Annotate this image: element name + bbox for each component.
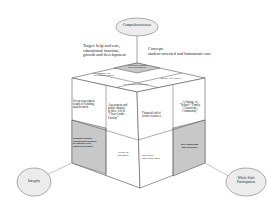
top-left-label: emphasize thecultivation of integrity: [88, 72, 120, 77]
node-comprehensiveness: Comprehensiveness: [118, 24, 156, 28]
right-tr-label: A linkage of"School - Family- Classroom …: [176, 101, 204, 114]
left-br-label: Follow upassessment: [108, 152, 138, 157]
node-whole-staff: Whole-Staff Participation: [232, 177, 260, 184]
target-text: Target: help and care, educational funct…: [83, 44, 126, 58]
top-front-label: develop social/mental state: [118, 83, 154, 85]
concept-text: Concept: student-oriented and humanistic…: [148, 47, 211, 56]
left-tl-label: Set up assessmentteams of Fundingqualifi…: [73, 100, 105, 109]
left-tr-label: Assessment andpublic displayat three lev…: [108, 104, 138, 120]
node-integrity: Integrity: [22, 180, 46, 184]
left-bl-label: Regularly updateinformation databaseof s…: [73, 138, 106, 149]
right-bl-label: addition ofwork-study posts: [142, 155, 172, 160]
top-back-label: Encourage students'initial to humanities: [122, 64, 152, 69]
right-br-label: peer counselingand assistance: [175, 144, 204, 149]
right-tl-label: Financial aid ofsocial resources: [142, 112, 172, 118]
top-right-label: improve their capacity: [154, 77, 188, 79]
